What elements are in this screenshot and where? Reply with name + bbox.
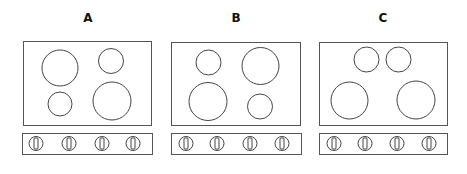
layout-a: A: [23, 11, 153, 155]
cooktop-layouts-figure: ABC: [0, 0, 467, 174]
layout-c: C: [320, 11, 448, 155]
cooktop-surface: [320, 43, 448, 126]
cooktop-surface: [24, 42, 152, 126]
layout-label: A: [83, 11, 93, 25]
layout-b: B: [172, 11, 302, 155]
layout-label: B: [231, 11, 240, 25]
layout-label: C: [379, 11, 388, 25]
cooktop-surface: [172, 43, 301, 126]
